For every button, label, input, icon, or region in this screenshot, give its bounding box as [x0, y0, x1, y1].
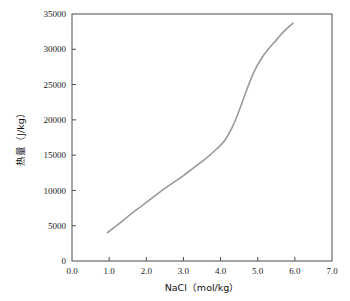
y-axis-ticks [72, 49, 76, 225]
x-tick-label: 4.0 [215, 266, 227, 276]
y-tick-label: 0 [62, 256, 67, 266]
x-axis-ticks [109, 257, 295, 261]
x-tick-label: 2.0 [141, 266, 153, 276]
x-tick-label: 3.0 [178, 266, 190, 276]
y-tick-label: 10000 [44, 186, 67, 196]
x-tick-label: 5.0 [252, 266, 264, 276]
x-axis-tick-labels: 0.01.02.03.04.05.06.07.0 [66, 266, 338, 276]
y-axis-tick-labels: 05000100001500020000250003000035000 [44, 9, 67, 266]
y-tick-label: 35000 [44, 9, 67, 19]
x-tick-label: 6.0 [289, 266, 301, 276]
y-tick-label: 20000 [44, 115, 67, 125]
y-tick-label: 25000 [44, 80, 67, 90]
line-chart: 05000100001500020000250003000035000 0.01… [0, 0, 350, 301]
x-tick-label: 7.0 [326, 266, 338, 276]
plot-frame [72, 14, 332, 261]
x-axis-title: NaCl（mol/kg） [165, 282, 240, 293]
chart-container: 05000100001500020000250003000035000 0.01… [0, 0, 350, 301]
y-tick-label: 5000 [48, 221, 67, 231]
y-tick-label: 30000 [44, 44, 67, 54]
x-tick-label: 0.0 [66, 266, 78, 276]
x-tick-label: 1.0 [104, 266, 116, 276]
data-series-line [107, 23, 293, 233]
y-axis-title: 热量（J/kg） [15, 108, 26, 166]
y-tick-label: 15000 [44, 150, 67, 160]
